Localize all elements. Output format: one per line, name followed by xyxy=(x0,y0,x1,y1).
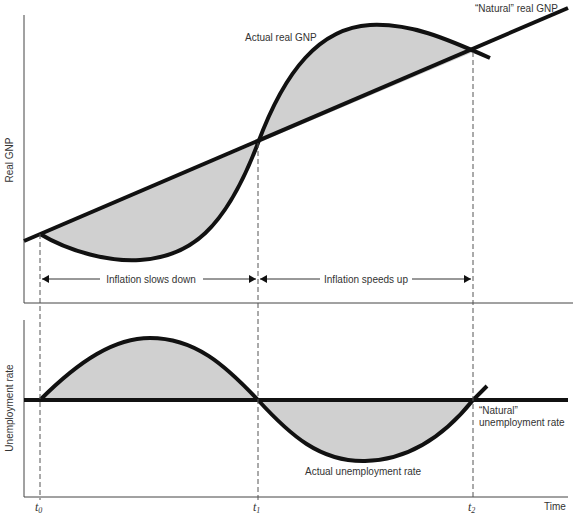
actual-gnp-label: Actual real GNP xyxy=(245,32,317,43)
top-y-axis-label: Real GNP xyxy=(4,137,15,182)
bottom-y-axis-label: Unemployment rate xyxy=(4,364,15,452)
tick-t1: t1 xyxy=(253,500,260,515)
actual-unemployment-label: Actual unemployment rate xyxy=(305,466,422,477)
x-axis-label: Time xyxy=(544,501,566,512)
x-axis-labels: t0 t1 t2 Time xyxy=(35,500,566,515)
tick-t2: t2 xyxy=(468,500,475,515)
natural-gnp-label: “Natural” real GNP xyxy=(475,3,558,14)
natural-unemployment-label-2: unemployment rate xyxy=(479,417,565,428)
tick-t0: t0 xyxy=(35,500,42,515)
diagram: Real GNP Actual real GNP “Natural” real … xyxy=(0,0,573,518)
natural-unemployment-label-1: “Natural” xyxy=(479,405,518,416)
gnp-gap-below-fill xyxy=(40,143,258,260)
inflation-slows-label: Inflation slows down xyxy=(106,274,196,285)
bottom-panel: Unemployment rate “Natural” unemployment… xyxy=(4,320,568,497)
top-panel: Real GNP Actual real GNP “Natural” real … xyxy=(4,3,573,303)
inflation-speeds-label: Inflation speeds up xyxy=(324,274,408,285)
